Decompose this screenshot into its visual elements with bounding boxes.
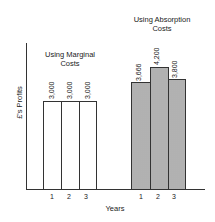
y-axis-label: £'s Profits — [15, 68, 24, 138]
absorption-value-1: 3,666 — [135, 63, 142, 81]
marginal-title-line1: Using Marginal — [30, 50, 110, 59]
marginal-value-2: 3,000 — [66, 81, 73, 99]
marginal-tick-3: 3 — [81, 193, 91, 200]
absorption-bar-3 — [168, 79, 186, 190]
marginal-bar-3 — [79, 101, 97, 190]
absorption-bar-2 — [150, 67, 169, 190]
marginal-tick-1: 1 — [47, 193, 57, 200]
y-axis — [26, 43, 27, 190]
marginal-value-3: 3,000 — [84, 81, 91, 99]
marginal-bar-2 — [61, 101, 80, 190]
absorption-bar-1 — [131, 82, 151, 190]
absorption-tick-3: 3 — [169, 193, 179, 200]
marginal-bar-1 — [43, 101, 62, 190]
marginal-title-line2: Costs — [30, 59, 110, 68]
absorption-value-2: 4,200 — [153, 47, 160, 65]
x-axis-label: Years — [95, 204, 135, 213]
marginal-group-title: Using Marginal Costs — [30, 50, 110, 68]
absorption-title-line1: Using Absorption — [122, 15, 202, 24]
marginal-tick-2: 2 — [64, 193, 74, 200]
absorption-group-title: Using Absorption Costs — [122, 15, 202, 33]
absorption-tick-2: 2 — [153, 193, 163, 200]
marginal-value-1: 3,000 — [48, 81, 55, 99]
absorption-value-3: 3,800 — [171, 60, 178, 78]
absorption-tick-1: 1 — [136, 193, 146, 200]
absorption-title-line2: Costs — [122, 24, 202, 33]
